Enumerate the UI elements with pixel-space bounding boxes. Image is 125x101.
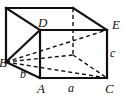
- edge-label-b: b: [20, 68, 26, 80]
- cuboid-figure: B A C D E a b c: [0, 0, 125, 101]
- edge-label-c: c: [110, 47, 115, 59]
- vertex-label-E: E: [112, 18, 120, 31]
- hidden-edge-H-C: [73, 55, 107, 78]
- edge-label-a: a: [68, 82, 74, 94]
- vertex-label-D: D: [38, 16, 47, 29]
- edge-backtopleft-D: [6, 8, 40, 30]
- vertex-label-A: A: [37, 82, 45, 95]
- vertex-label-C: C: [105, 82, 114, 95]
- vertex-label-B: B: [0, 56, 7, 69]
- edge-backtopright-E: [73, 8, 107, 30]
